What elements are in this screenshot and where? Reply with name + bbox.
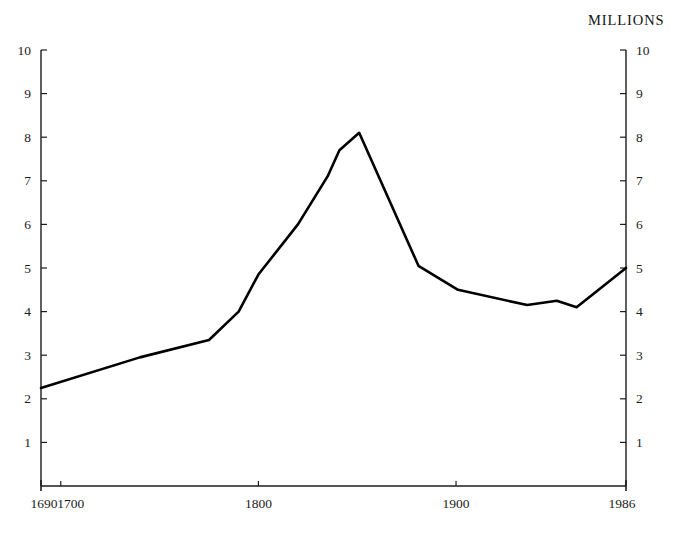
left-tick-label: 1: [24, 435, 31, 450]
right-tick-label: 2: [636, 391, 643, 406]
x-axis-ticks: 16901700180019001986: [31, 480, 636, 511]
left-axis-ticks: 12345678910: [18, 43, 48, 450]
right-axis-ticks: 12345678910: [620, 43, 650, 450]
left-tick-label: 9: [24, 86, 31, 101]
left-tick-label: 6: [24, 217, 31, 232]
x-tick-label: 1800: [245, 496, 272, 511]
population-line: [41, 133, 626, 388]
axes-group: [41, 50, 626, 486]
x-tick-label: 1700: [57, 496, 84, 511]
x-tick-label: 1900: [443, 496, 470, 511]
left-tick-label: 2: [24, 391, 31, 406]
left-tick-label: 7: [24, 173, 31, 188]
right-tick-label: 10: [636, 43, 650, 58]
right-tick-label: 3: [636, 348, 643, 363]
chart-canvas: 12345678910 12345678910 1690170018001900…: [0, 0, 696, 533]
left-tick-label: 10: [18, 43, 32, 58]
right-tick-label: 5: [636, 261, 643, 276]
left-tick-label: 4: [24, 304, 31, 319]
left-tick-label: 3: [24, 348, 31, 363]
data-series-group: [41, 133, 626, 388]
right-tick-label: 8: [636, 130, 643, 145]
left-tick-label: 5: [24, 261, 31, 276]
x-tick-label: 1690: [31, 496, 58, 511]
chart-figure: MILLIONS 12345678910 12345678910 1690170…: [0, 0, 696, 533]
left-tick-label: 8: [24, 130, 31, 145]
right-tick-label: 9: [636, 86, 643, 101]
right-tick-label: 1: [636, 435, 643, 450]
right-tick-label: 4: [636, 304, 643, 319]
right-tick-label: 7: [636, 173, 643, 188]
x-tick-label: 1986: [609, 496, 636, 511]
right-tick-label: 6: [636, 217, 643, 232]
